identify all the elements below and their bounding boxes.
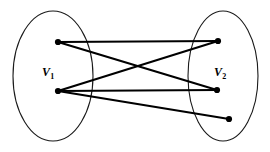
set-label-v2-subscript: 2 [222, 72, 226, 81]
set-label-v1-main: V [42, 65, 50, 79]
set-label-v2: V2 [214, 66, 226, 78]
graph-vertex-b3 [226, 116, 232, 122]
graph-edge-a2-b3 [58, 91, 229, 119]
graph-edge-a1-b1 [58, 41, 218, 42]
graph-canvas [0, 0, 270, 152]
bipartite-graph-figure: V1 V2 [0, 0, 270, 152]
graph-vertex-a1 [55, 39, 61, 45]
graph-edge-a2-b2 [58, 90, 217, 91]
set-label-v1: V1 [42, 66, 54, 78]
set-label-v1-subscript: 1 [50, 72, 54, 81]
graph-vertex-b2 [214, 87, 220, 93]
set-label-v2-main: V [214, 65, 222, 79]
graph-vertex-b1 [215, 38, 221, 44]
graph-vertex-a2 [55, 88, 61, 94]
